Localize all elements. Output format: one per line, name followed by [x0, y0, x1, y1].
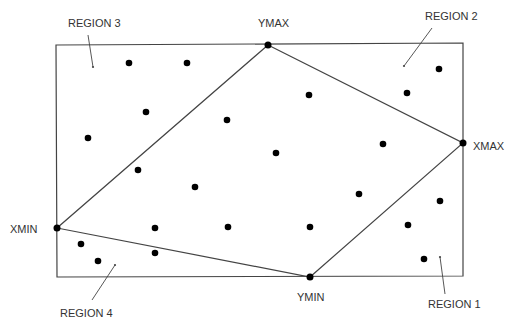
point-dot	[126, 60, 133, 67]
region-4-arrowhead-icon	[114, 264, 116, 266]
point-dot	[437, 198, 444, 205]
point-dot	[421, 256, 428, 263]
point-dot	[192, 184, 199, 191]
point-dot	[85, 135, 92, 142]
point-dot	[307, 224, 314, 231]
point-dot	[152, 225, 159, 232]
xmax-vertex	[460, 140, 467, 147]
region-3-label: REGION 3	[68, 17, 121, 29]
point-dot	[306, 92, 313, 99]
point-dot	[143, 109, 150, 116]
region-1-label: REGION 1	[428, 298, 481, 310]
point-dot	[405, 222, 412, 229]
region-2-arrowhead-icon	[403, 65, 405, 67]
point-dot	[152, 250, 159, 257]
region-3-arrowhead-icon	[92, 66, 94, 68]
point-dot	[404, 90, 411, 97]
point-dot	[224, 117, 231, 124]
ymin-vertex	[307, 274, 314, 281]
point-dot	[273, 150, 280, 157]
region-labels: REGION 3REGION 2REGION 4REGION 1	[60, 10, 481, 319]
region-2-pointer-arrow	[404, 28, 432, 66]
region-2-label: REGION 2	[425, 10, 478, 22]
region-4-pointer-arrow	[92, 265, 115, 300]
point-dot	[436, 66, 443, 73]
ymax-vertex	[265, 42, 272, 49]
xmin-vertex	[54, 225, 61, 232]
xmax-label: XMAX	[473, 140, 505, 152]
point-dot	[225, 224, 232, 231]
bounding-rectangle	[56, 43, 463, 277]
convex-hull-diagram: YMAXXMAXYMINXMIN REGION 3REGION 2REGION …	[0, 0, 513, 325]
point-dot	[380, 141, 387, 148]
hull-quadrilateral	[57, 45, 463, 277]
point-dot	[78, 241, 85, 248]
xmin-label: XMIN	[10, 223, 38, 235]
point-dot	[184, 60, 191, 67]
region-1-arrowhead-icon	[439, 256, 441, 258]
ymin-label: YMIN	[297, 291, 325, 303]
extreme-points: YMAXXMAXYMINXMIN	[10, 17, 505, 303]
region-4-label: REGION 4	[60, 307, 113, 319]
point-dot	[356, 191, 363, 198]
ymax-label: YMAX	[258, 17, 290, 29]
point-dot	[135, 167, 142, 174]
point-dot	[95, 258, 102, 265]
region-3-pointer-arrow	[88, 35, 93, 67]
